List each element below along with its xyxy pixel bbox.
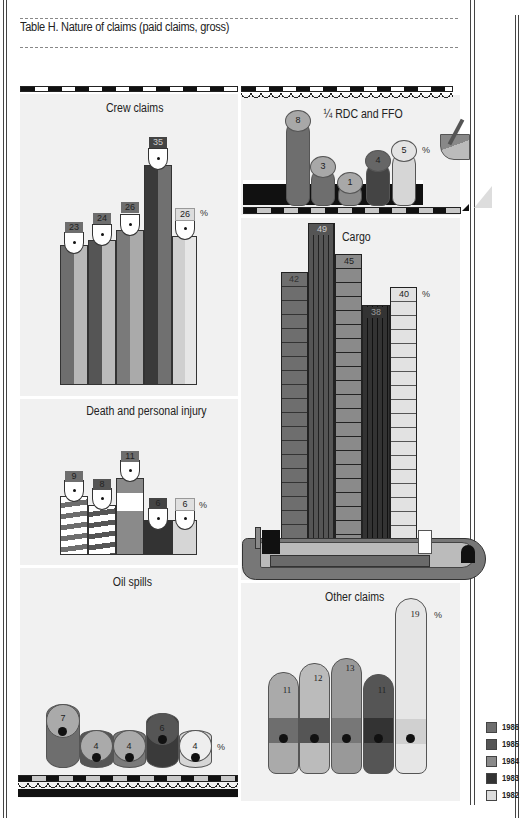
cargo-bar-1983 xyxy=(362,305,390,555)
oil-hole-icon xyxy=(158,735,167,744)
rdc-cylinder-1986 xyxy=(286,120,310,206)
rdc-label-1983: 4 xyxy=(369,155,387,166)
frame-line-right-2 xyxy=(474,0,475,805)
checker-strip-left xyxy=(20,86,238,92)
legend-label-1983: 1983 xyxy=(502,773,519,783)
death-face xyxy=(92,488,112,510)
other-title: Other claims xyxy=(325,590,384,604)
triangle-icon xyxy=(474,186,492,208)
crew-label-1985: 24 xyxy=(93,213,111,224)
death-bar-1986 xyxy=(60,496,88,555)
crew-bar-1982 xyxy=(172,236,197,385)
other-seal-icon xyxy=(374,734,383,743)
other-label-1986: 11 xyxy=(278,685,296,696)
other-scroll-1984 xyxy=(331,658,362,774)
ship-bow xyxy=(461,545,475,563)
legend-swatch-1985 xyxy=(486,739,497,750)
cargo-bar-1985 xyxy=(308,223,335,555)
crew-bar-1986 xyxy=(60,245,88,385)
oil-label-1982: 4 xyxy=(186,741,204,752)
crew-bar-1985 xyxy=(88,240,116,385)
other-label-1984: 13 xyxy=(341,663,359,674)
frame-line-right-3 xyxy=(515,15,516,818)
rdc-checker xyxy=(243,207,461,214)
ship-mast xyxy=(255,527,261,549)
checker-strip-right xyxy=(241,86,453,92)
oil-hole-icon xyxy=(92,753,101,762)
other-seal-icon xyxy=(310,734,319,743)
other-label-1985: 12 xyxy=(309,673,327,684)
cargo-label-1984: 45 xyxy=(339,256,359,267)
legend-swatch-1986 xyxy=(486,722,497,733)
other-label-1983: 11 xyxy=(373,685,391,696)
frame-line-right-4 xyxy=(518,15,519,818)
rdc-title: ¼ RDC and FFO xyxy=(323,107,402,121)
death-label-1985: 8 xyxy=(93,479,111,490)
other-seal-icon xyxy=(406,734,415,743)
oil-hole-icon xyxy=(191,753,200,762)
oil-title: Oil spills xyxy=(113,575,152,589)
ship-hold xyxy=(270,555,430,567)
cargo-title: Cargo xyxy=(342,230,371,244)
death-bar-1985 xyxy=(88,505,116,555)
death-label-1986: 9 xyxy=(65,471,83,482)
rdc-label-1986: 8 xyxy=(289,115,307,126)
cargo-label-1985: 49 xyxy=(312,224,332,235)
crew-label-1986: 23 xyxy=(65,222,83,233)
death-unit: % xyxy=(199,500,207,510)
crew-bar-1984 xyxy=(116,230,144,385)
crew-face xyxy=(148,148,168,170)
legend-label-1985: 1985 xyxy=(502,739,519,749)
ship-cabin xyxy=(418,530,432,554)
crew-label-1984: 26 xyxy=(121,202,139,213)
cargo-label-1986: 42 xyxy=(284,274,304,285)
legend-swatch-1984 xyxy=(486,756,497,767)
small-triangle-icon xyxy=(462,204,469,211)
death-bar-1984 xyxy=(116,478,144,555)
other-seal-icon xyxy=(279,734,288,743)
cargo-bar-1984 xyxy=(335,254,362,555)
cargo-label-1983: 38 xyxy=(366,307,386,318)
legend-label-1982: 1982 xyxy=(502,790,519,800)
death-face xyxy=(175,508,195,530)
oil-checker xyxy=(18,775,238,782)
rdc-label-1984: 1 xyxy=(341,177,359,188)
death-label-1984: 11 xyxy=(121,451,139,462)
cargo-bar-1986 xyxy=(281,272,308,555)
crew-unit: % xyxy=(200,208,208,218)
legend-swatch-1982 xyxy=(486,790,497,801)
ship-stern-tower xyxy=(262,530,280,554)
other-unit: % xyxy=(434,610,442,620)
title-rule-bottom xyxy=(20,47,458,48)
cargo-unit: % xyxy=(422,289,430,299)
wave-strip-top xyxy=(241,93,453,101)
other-label-1982: 19 xyxy=(406,609,424,620)
crew-bar-1983 xyxy=(144,165,172,385)
oil-label-1984: 4 xyxy=(120,741,138,752)
death-face xyxy=(148,508,168,530)
page-title: Table H. Nature of claims (paid claims, … xyxy=(20,20,229,34)
oil-label-1986: 7 xyxy=(54,713,72,724)
death-face xyxy=(120,460,140,482)
crew-face xyxy=(175,218,195,240)
crew-label-1982: 26 xyxy=(175,208,195,221)
frame-line-left-2 xyxy=(6,0,7,818)
oil-unit: % xyxy=(217,742,225,752)
death-label-1982: 6 xyxy=(175,498,195,511)
oil-hole-icon xyxy=(125,753,134,762)
oil-label-1985: 4 xyxy=(87,741,105,752)
oil-label-1983: 6 xyxy=(153,723,171,734)
frame-line-right-1 xyxy=(470,0,471,805)
death-label-1983: 6 xyxy=(149,498,167,509)
frame-line-left xyxy=(3,0,4,818)
rdc-label-1985: 3 xyxy=(314,161,332,172)
oil-hole-icon xyxy=(58,727,67,736)
rdc-unit: % xyxy=(422,145,430,155)
other-seal-icon xyxy=(342,734,351,743)
rdc-label-1982: 5 xyxy=(395,145,413,156)
other-scroll-1982 xyxy=(395,598,427,774)
crew-face xyxy=(64,232,84,254)
oil-water xyxy=(18,789,238,797)
death-title: Death and personal injury xyxy=(86,404,206,418)
crew-label-1983: 35 xyxy=(149,137,167,148)
